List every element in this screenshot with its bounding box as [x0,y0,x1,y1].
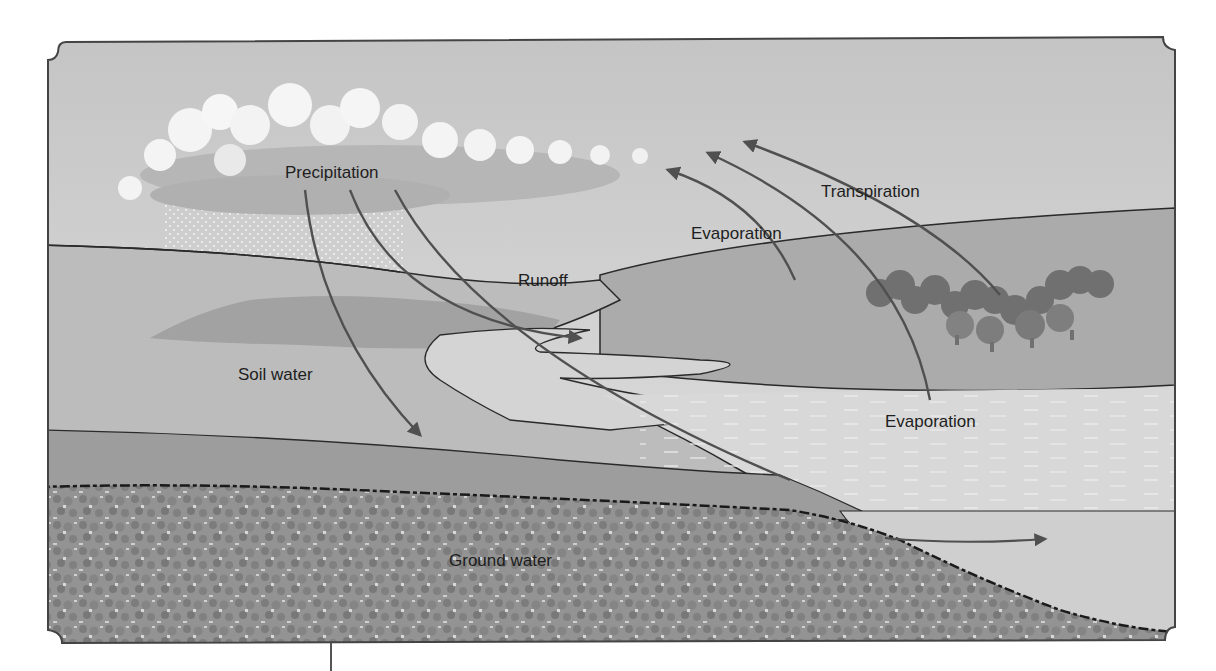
label-ground-water: Ground water [449,552,552,569]
hydrologic-cycle-diagram [0,0,1216,671]
diagram-scene [40,30,1190,660]
label-precipitation: Precipitation [285,164,379,181]
label-soil-water: Soil water [238,366,313,383]
label-transpiration: Transpiration [821,183,920,200]
label-evaporation-upper: Evaporation [691,225,782,242]
label-evaporation-lower: Evaporation [885,413,976,430]
label-runoff: Runoff [518,272,568,289]
